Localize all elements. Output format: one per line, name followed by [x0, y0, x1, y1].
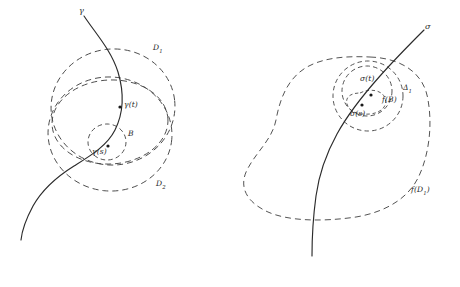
point-gamma-t: [118, 105, 121, 108]
label-gamma-s: γ(s): [92, 148, 107, 156]
label-delta1: Δ1: [403, 84, 412, 94]
curve-gamma: [21, 16, 122, 240]
right-panel-graphics: [244, 30, 430, 256]
point-sigma-s: [360, 103, 363, 106]
label-gamma-curve: γ: [79, 6, 84, 14]
label-d2-sub: 2: [162, 184, 166, 190]
point-gamma-s: [106, 144, 109, 147]
label-f-d1: f(D1): [411, 186, 430, 196]
curve-sigma: [312, 30, 424, 256]
region-middle-oval: [50, 77, 170, 167]
region-d1: [45, 43, 180, 171]
region-f-d1: [244, 57, 430, 220]
label-ball-b: B: [128, 130, 134, 138]
figure-canvas: γ D1 γ(t) B γ(s) D2 σ σ(t) Δ1 f(B) σ(s) …: [0, 0, 460, 287]
label-d1-sub: 1: [159, 48, 163, 54]
label-sigma-s: σ(s): [350, 110, 365, 118]
label-f-d1-text: f(D: [411, 185, 423, 194]
label-sigma-curve: σ: [425, 22, 431, 30]
region-d2: [43, 72, 176, 196]
label-f-d1-close: ): [427, 185, 430, 194]
point-sigma-t: [369, 93, 372, 96]
label-delta1-sub: 1: [409, 88, 413, 94]
label-d2: D2: [156, 180, 166, 190]
label-sigma-t: σ(t): [360, 75, 375, 83]
label-f-b: f(B): [382, 96, 397, 104]
label-d1: D1: [153, 44, 163, 54]
label-gamma-t: γ(t): [124, 101, 138, 109]
